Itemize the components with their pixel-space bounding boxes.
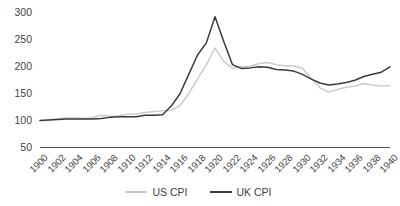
y-tick-label: 100 <box>2 114 32 126</box>
legend-swatch-uk-cpi <box>210 191 232 193</box>
legend-item-us-cpi[interactable]: US CPI <box>125 186 187 198</box>
y-tick-label: 300 <box>2 6 32 18</box>
series-line-uk-cpi <box>40 17 390 121</box>
chart-legend: US CPI UK CPI <box>0 186 397 198</box>
y-tick-label: 250 <box>2 33 32 45</box>
legend-label-uk-cpi: UK CPI <box>237 186 272 198</box>
legend-swatch-us-cpi <box>125 191 147 193</box>
legend-item-uk-cpi[interactable]: UK CPI <box>210 186 272 198</box>
legend-label-us-cpi: US CPI <box>152 186 187 198</box>
y-tick-label: 200 <box>2 60 32 72</box>
y-tick-label: 50 <box>2 141 32 153</box>
y-tick-label: 150 <box>2 87 32 99</box>
